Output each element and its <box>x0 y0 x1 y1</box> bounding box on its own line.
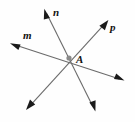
line-label-n: n <box>53 7 59 18</box>
vertex-point-A <box>66 55 71 60</box>
line-m <box>10 43 125 80</box>
line-n-start-arrow-icon <box>44 9 50 20</box>
geometry-figure: n p m A <box>0 0 135 122</box>
line-p <box>26 20 108 110</box>
lines-canvas <box>0 0 135 122</box>
line-m-segment <box>15 45 120 79</box>
line-label-m: m <box>23 30 32 41</box>
line-m-end-arrow-icon <box>114 74 125 81</box>
vertex-label-A: A <box>76 54 83 65</box>
line-label-p: p <box>110 22 116 33</box>
line-p-segment <box>31 25 104 106</box>
line-m-start-arrow-icon <box>10 43 21 50</box>
